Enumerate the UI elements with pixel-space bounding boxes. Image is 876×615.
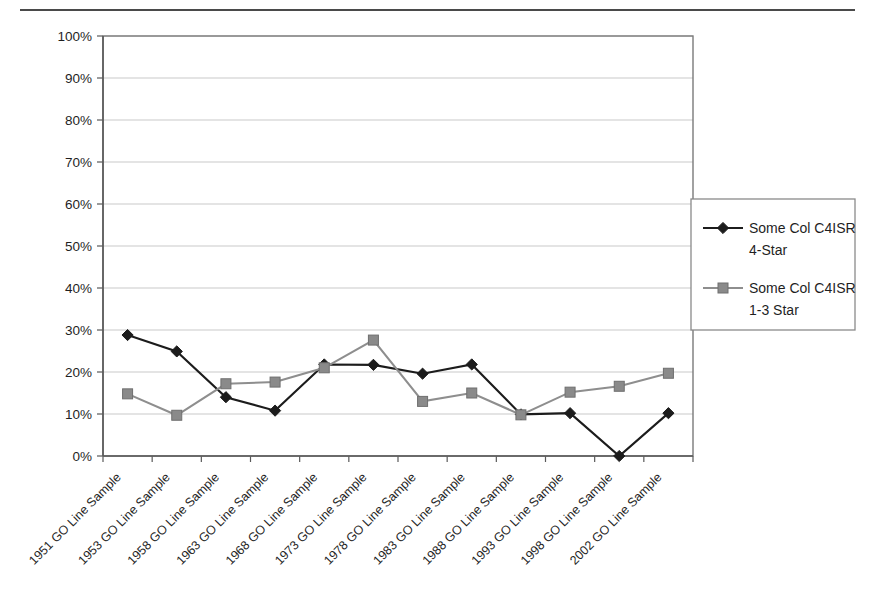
y-axis-tick-label: 60% [65,197,92,212]
data-point-marker [319,363,329,373]
series-line [128,340,669,415]
data-point-marker [614,381,624,391]
chart-legend: Some Col C4ISR4-StarSome Col C4ISR1-3 St… [691,199,856,330]
x-axis-tick-label: 1951 GO Line Sample [26,470,123,567]
x-axis-tick-label: 1973 GO Line Sample [272,470,369,567]
data-point-marker [565,387,575,397]
data-point-marker [172,410,182,420]
y-axis-tick-label: 30% [65,323,92,338]
y-tick-marks-group [97,36,103,456]
y-axis-tick-label: 100% [57,29,92,44]
y-axis-tick-label: 90% [65,71,92,86]
x-axis-tick-label: 1988 GO Line Sample [420,470,517,567]
y-axis-tick-label: 0% [72,449,92,464]
legend-label-line1: Some Col C4ISR [749,220,856,236]
y-axis-tick-label: 50% [65,239,92,254]
data-point-marker [122,329,133,340]
data-point-marker [270,377,280,387]
legend-marker [718,283,728,293]
y-axis-tick-label: 80% [65,113,92,128]
legend-label-line2: 1-3 Star [749,302,799,318]
gridlines-group [103,36,693,414]
legend-label-line2: 4-Star [749,242,787,258]
y-axis-tick-label: 40% [65,281,92,296]
y-axis-tick-label: 70% [65,155,92,170]
data-point-marker [123,389,133,399]
x-axis-tick-label: 1978 GO Line Sample [321,470,418,567]
data-point-marker [516,410,526,420]
data-point-marker [221,379,231,389]
data-point-marker [368,335,378,345]
x-tick-marks-group [103,456,693,462]
x-axis-tick-label: 1968 GO Line Sample [223,470,320,567]
chart-figure: 100%90%80%70%60%50%40%30%20%10%0% 1951 G… [0,0,876,615]
data-point-marker [418,396,428,406]
data-point-marker [417,368,428,379]
y-axis-labels-group: 100%90%80%70%60%50%40%30%20%10%0% [57,29,92,464]
line-chart: 100%90%80%70%60%50%40%30%20%10%0% 1951 G… [0,0,876,615]
data-point-marker [368,359,379,370]
data-series-group [122,329,674,461]
y-axis-tick-label: 20% [65,365,92,380]
x-axis-tick-label: 1963 GO Line Sample [174,470,271,567]
data-point-marker [467,388,477,398]
x-axis-tick-label: 1993 GO Line Sample [469,470,566,567]
x-axis-labels-group: 1951 GO Line Sample1953 GO Line Sample19… [26,470,664,567]
x-axis-tick-label: 1983 GO Line Sample [371,470,468,567]
x-axis-tick-label: 2002 GO Line Sample [567,470,664,567]
data-point-marker [663,368,673,378]
x-axis-tick-label: 1998 GO Line Sample [518,470,615,567]
x-axis-tick-label: 1958 GO Line Sample [125,470,222,567]
x-axis-tick-label: 1953 GO Line Sample [76,470,173,567]
y-axis-tick-label: 10% [65,407,92,422]
legend-label-line1: Some Col C4ISR [749,280,856,296]
